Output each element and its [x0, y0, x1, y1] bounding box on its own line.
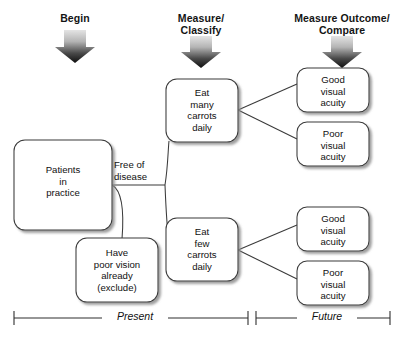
box-outcome-many-good	[297, 68, 369, 112]
connector-many-branch	[238, 84, 297, 139]
arrow-measure-outcome-icon	[322, 36, 362, 68]
box-patients-in-practice	[14, 140, 112, 230]
box-outcome-many-poor	[297, 122, 369, 166]
flowchart-canvas	[0, 0, 405, 339]
connector-lines	[112, 141, 169, 243]
box-outcome-few-poor	[297, 261, 369, 305]
box-eat-many-carrots	[166, 79, 238, 142]
node-boxes	[14, 68, 369, 305]
edge-label-free-of-disease: Free of disease	[114, 159, 170, 182]
flowchart-diagram: Begin Measure/ Classify Measure Outcome/…	[0, 0, 405, 339]
box-outcome-few-good	[297, 207, 369, 251]
timeline-label-present: Present	[102, 311, 168, 322]
arrow-begin-icon	[55, 30, 95, 63]
box-have-poor-vision	[76, 238, 158, 302]
column-header-begin: Begin	[36, 12, 114, 24]
column-header-measure-classify: Measure/ Classify	[161, 12, 241, 37]
column-header-measure-outcome-compare: Measure Outcome/ Compare	[277, 12, 405, 37]
connector-few-branch	[238, 225, 297, 279]
box-eat-few-carrots	[166, 218, 238, 281]
arrow-measure-classify-icon	[181, 36, 221, 68]
timeline-label-future: Future	[297, 311, 357, 322]
